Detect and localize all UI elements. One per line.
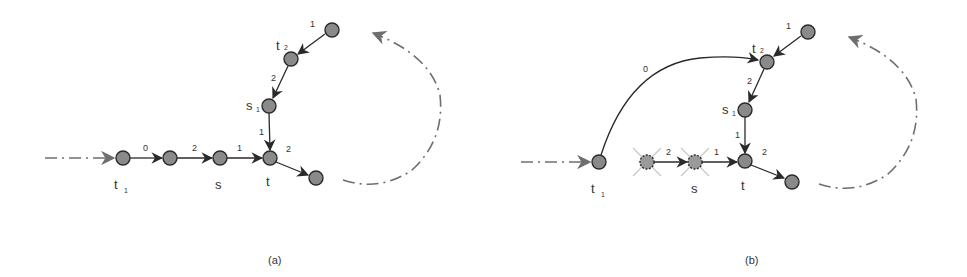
edge-s1-t bbox=[269, 113, 270, 150]
node-label-t1: t bbox=[114, 177, 118, 192]
panel-a: 0 2 1 2 1 2 1 t 1 s t t 2 s 1 (a) bbox=[45, 19, 441, 266]
node-s-removed bbox=[688, 155, 702, 169]
edge-label: 0 bbox=[643, 64, 648, 74]
edge-top-t2 bbox=[298, 34, 325, 54]
node-out bbox=[309, 171, 323, 185]
edge-label: 1 bbox=[714, 147, 719, 157]
node-t2 bbox=[284, 52, 298, 66]
edge-t-out bbox=[276, 162, 308, 175]
node-label-t1: t bbox=[591, 181, 595, 196]
node-t bbox=[738, 154, 752, 168]
node-n2-removed bbox=[640, 155, 654, 169]
edge-label: 2 bbox=[666, 147, 671, 157]
node-label-t: t bbox=[266, 174, 270, 189]
node-label-s: s bbox=[215, 177, 222, 192]
edge-label: 0 bbox=[143, 143, 148, 153]
node-top bbox=[325, 23, 339, 37]
edge-label: 2 bbox=[286, 144, 291, 154]
node-s1 bbox=[262, 99, 276, 113]
edge-t-out bbox=[751, 165, 784, 178]
edge-t1-t2-curve bbox=[601, 57, 758, 155]
node-label-s1: s bbox=[722, 102, 729, 117]
panel-b: 0 2 1 2 1 2 1 t 1 s t t 2 s 1 (b) bbox=[521, 21, 917, 266]
edge-top-t2 bbox=[774, 36, 801, 56]
node-n2 bbox=[163, 151, 177, 165]
node-s1 bbox=[738, 103, 752, 117]
node-label-t2-sub: 2 bbox=[284, 44, 288, 51]
edge-label: 2 bbox=[747, 76, 752, 86]
edge-label: 1 bbox=[259, 127, 264, 137]
loop-dashed-arc bbox=[819, 37, 917, 188]
diagram-canvas: 0 2 1 2 1 2 1 t 1 s t t 2 s 1 (a) bbox=[0, 0, 967, 277]
edge-label: 1 bbox=[310, 19, 315, 29]
node-t1 bbox=[592, 155, 606, 169]
node-t2 bbox=[760, 55, 774, 69]
node-label-t1-sub: 1 bbox=[124, 187, 128, 194]
node-s bbox=[213, 151, 227, 165]
edge-label: 2 bbox=[271, 73, 276, 83]
node-t1 bbox=[116, 151, 130, 165]
edge-label: 1 bbox=[735, 130, 740, 140]
edge-label: 1 bbox=[237, 143, 242, 153]
node-top bbox=[801, 25, 815, 39]
loop-dashed-arc bbox=[343, 33, 441, 184]
node-label-t2-sub: 2 bbox=[760, 47, 764, 54]
node-label-t1-sub: 1 bbox=[601, 191, 605, 198]
edge-label: 1 bbox=[786, 21, 791, 31]
node-out bbox=[785, 175, 799, 189]
edge-label: 2 bbox=[192, 143, 197, 153]
node-label-s1-sub: 1 bbox=[732, 110, 736, 117]
node-label-s1: s bbox=[246, 98, 253, 113]
node-label-s1-sub: 1 bbox=[256, 106, 260, 113]
node-label-t2: t bbox=[752, 41, 756, 56]
node-t bbox=[263, 151, 277, 165]
caption-a: (a) bbox=[268, 254, 281, 266]
node-label-t: t bbox=[741, 178, 745, 193]
node-label-s: s bbox=[691, 181, 698, 196]
caption-b: (b) bbox=[745, 254, 758, 266]
node-label-t2: t bbox=[276, 38, 280, 53]
edge-label: 2 bbox=[762, 147, 767, 157]
